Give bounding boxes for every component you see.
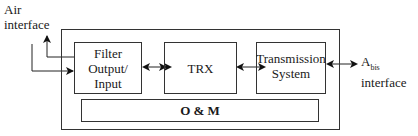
abis-main: A: [361, 54, 370, 69]
transmission-label: Transmission System: [253, 51, 329, 81]
abis-label-line2: interface: [361, 75, 406, 90]
transmission-line2: System: [253, 66, 329, 81]
abis-interface-label: Abis interface: [361, 54, 406, 90]
filter-line3: Input: [75, 76, 141, 91]
filter-line1: Filter: [75, 46, 141, 61]
filter-block: Filter Output/ Input: [74, 42, 142, 94]
trx-label: TRX: [165, 61, 236, 76]
trx-block: TRX: [164, 42, 237, 94]
om-label: O & M: [82, 103, 318, 118]
filter-label: Filter Output/ Input: [75, 46, 141, 91]
filter-line2: Output/: [75, 61, 141, 76]
air-label-line1: Air: [4, 2, 49, 17]
transmission-block: Transmission System: [256, 42, 326, 94]
abis-label-line1: Abis: [361, 54, 406, 75]
om-block: O & M: [81, 99, 319, 122]
transmission-line1: Transmission: [253, 51, 329, 66]
air-interface-label: Air interface: [4, 2, 49, 32]
abis-sub: bis: [370, 63, 379, 72]
air-label-line2: interface: [4, 17, 49, 32]
